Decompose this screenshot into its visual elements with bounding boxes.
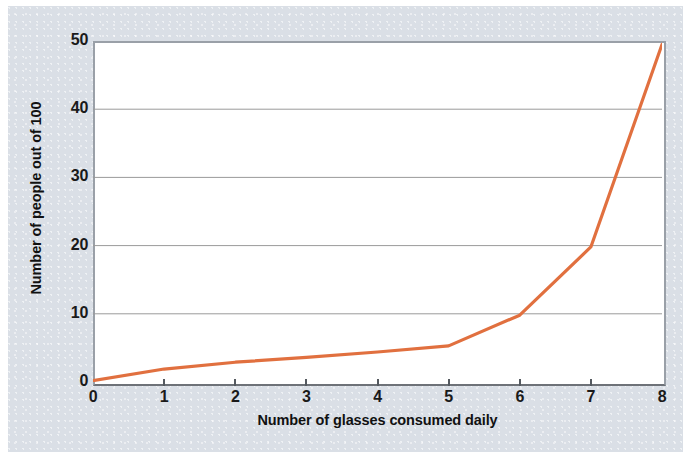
x-tick-mark [305, 379, 307, 386]
x-tick-label: 5 [434, 388, 464, 406]
y-axis-title: Number of people out of 100 [28, 78, 44, 318]
y-tick-label: 50 [58, 31, 88, 49]
x-tick-mark [519, 379, 521, 386]
x-tick-label: 6 [505, 388, 535, 406]
x-axis-title: Number of glasses consumed daily [93, 412, 662, 428]
chart-svg [93, 41, 662, 382]
x-tick-mark [163, 379, 165, 386]
y-tick-label: 10 [58, 304, 88, 322]
x-axis-ticks: 012345678 [93, 386, 662, 410]
data-line-people [93, 44, 662, 380]
y-axis-ticks: 01020304050 [52, 41, 88, 382]
x-tick-mark [590, 379, 592, 386]
x-tick-mark [377, 379, 379, 386]
x-tick-label: 1 [149, 388, 179, 406]
x-tick-label: 4 [363, 388, 393, 406]
x-tick-label: 8 [647, 388, 677, 406]
x-tick-mark [448, 379, 450, 386]
x-tick-label: 3 [291, 388, 321, 406]
x-tick-mark [234, 379, 236, 386]
y-tick-label: 20 [58, 236, 88, 254]
y-tick-label: 40 [58, 99, 88, 117]
y-tick-label: 30 [58, 167, 88, 185]
figure: 01020304050 012345678 Number of people o… [0, 0, 691, 466]
gridlines [93, 109, 662, 314]
x-tick-label: 7 [576, 388, 606, 406]
data-series-group [93, 44, 662, 380]
x-tick-label: 0 [78, 388, 108, 406]
x-tick-label: 2 [220, 388, 250, 406]
